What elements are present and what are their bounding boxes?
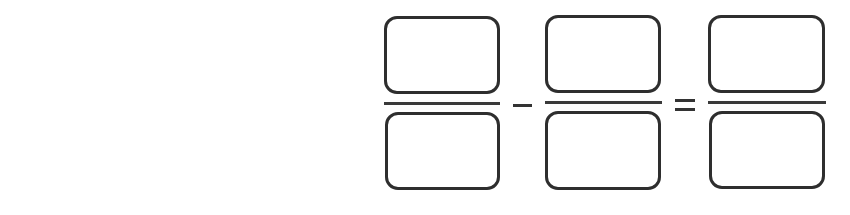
fraction-2-numerator-box[interactable]: [545, 15, 661, 93]
minus-sign: [513, 104, 532, 107]
fraction-1-bar: [384, 102, 500, 105]
fraction-3-numerator-box[interactable]: [708, 15, 825, 93]
fraction-2-denominator-box[interactable]: [545, 111, 661, 190]
equals-top-bar: [675, 99, 695, 102]
equals-bottom-bar: [675, 108, 695, 111]
fraction-1-numerator-box[interactable]: [384, 16, 500, 94]
fraction-3-bar: [708, 101, 826, 104]
fraction-1-denominator-box[interactable]: [385, 112, 500, 190]
fraction-3-denominator-box[interactable]: [709, 111, 825, 189]
fraction-2-bar: [545, 101, 662, 104]
